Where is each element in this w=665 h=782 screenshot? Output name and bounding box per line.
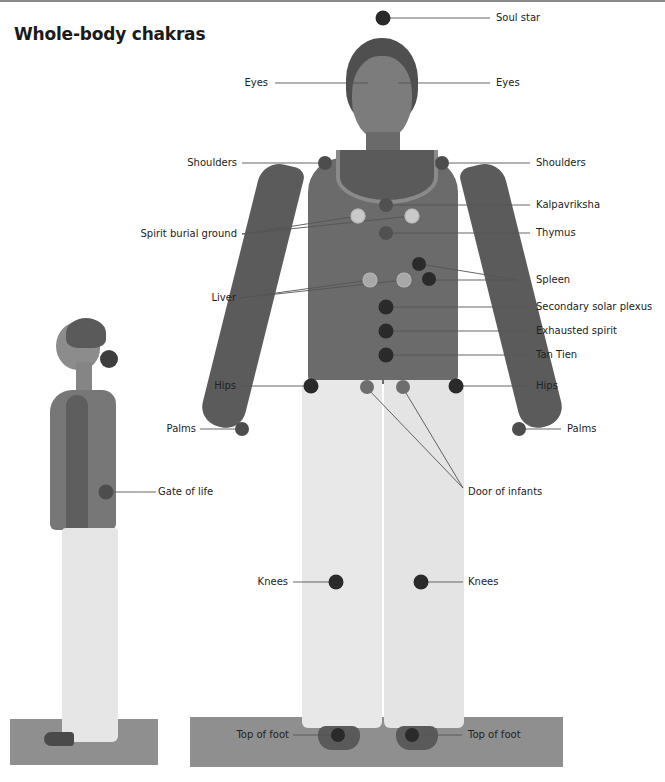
dot-secondary-solar-plexus [379,300,394,315]
label-exhausted-spirit: Exhausted spirit [536,325,617,337]
dot-soul-star [376,11,391,26]
dot-hip-left [304,379,319,394]
dot-door-of-infants-left [360,380,374,394]
dot-liver-left [363,273,378,288]
label-eyes-left: Eyes [244,77,268,89]
label-top-of-foot-left: Top of foot [236,729,289,741]
label-hips-left: Hips [214,380,236,392]
dot-thymus [379,226,393,240]
label-spleen: Spleen [536,274,570,286]
dot-palm-right [512,422,526,436]
label-knees-right: Knees [468,576,498,588]
label-eyes-right: Eyes [496,77,520,89]
dot-kalpavriksha [379,198,393,212]
label-door-of-infants: Door of infants [468,486,542,498]
front-trousers-left [302,380,382,728]
dot-knee-right [414,575,429,590]
label-top-of-foot-right: Top of foot [468,729,521,741]
side-hair-bun [100,350,118,368]
dot-top-of-foot-right [405,728,419,742]
label-knees-left: Knees [258,576,288,588]
dot-exhausted-spirit [379,324,394,339]
front-top-neckline [336,150,438,204]
label-gate-of-life: Gate of life [158,486,213,498]
top-border [0,0,665,2]
label-thymus: Thymus [536,227,576,239]
label-shoulders-right: Shoulders [536,157,586,169]
label-palms-left: Palms [167,423,196,435]
dot-shoulder-right [435,156,449,170]
dot-top-of-foot-left [331,728,345,742]
dot-knee-left [329,575,344,590]
label-tan-tien: Tan Tien [536,349,577,361]
dot-spleen-upper [412,257,426,271]
side-hair [66,318,106,348]
front-face [352,56,412,140]
dot-hip-right [449,379,464,394]
side-foot [44,732,74,746]
dot-palm-left [235,422,249,436]
page-title: Whole-body chakras [14,24,205,44]
dot-spirit-burial-right [405,209,420,224]
side-neck [76,362,92,392]
label-liver: Liver [211,292,236,304]
side-trousers [62,528,118,742]
dot-liver-right [397,273,412,288]
front-trousers-right [384,380,464,728]
label-soul-star: Soul star [496,12,540,24]
dot-tan-tien [379,348,394,363]
dot-spirit-burial-left [351,209,366,224]
label-spirit-burial-ground: Spirit burial ground [140,228,237,240]
dot-shoulder-left [318,156,332,170]
label-hips-right: Hips [536,380,558,392]
dot-spleen-lower [422,272,436,286]
dot-gate-of-life [99,485,114,500]
label-kalpavriksha: Kalpavriksha [536,199,600,211]
label-shoulders-left: Shoulders [187,157,237,169]
label-secondary-solar-plexus: Secondary solar plexus [536,301,652,313]
label-palms-right: Palms [567,423,596,435]
dot-door-of-infants-right [396,380,410,394]
